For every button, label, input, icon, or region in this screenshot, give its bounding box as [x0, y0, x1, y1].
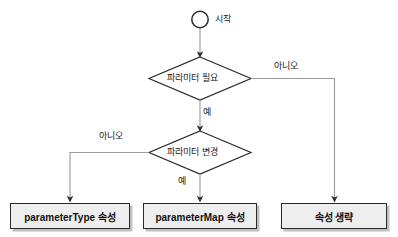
- edge-need-parameter-no-to-omit: [251, 79, 335, 200]
- terminal-parameter-type-label: parameterType 속성: [24, 209, 116, 224]
- terminal-parameter-map-label: parameterMap 속성: [155, 209, 244, 224]
- terminal-parameter-map[interactable]: parameterMap 속성: [143, 203, 257, 229]
- start-node-circle: [192, 11, 208, 27]
- flowchart-canvas: 시작 파라미터 필요 파라미터 변경 아니오 예 아니오 예 parameter…: [0, 0, 398, 237]
- decision-change-parameter-label: 파라미터 변경: [167, 148, 218, 157]
- terminal-omit-attribute-label: 속성 생략: [315, 209, 354, 224]
- decision-need-parameter-label: 파라미터 필요: [167, 74, 218, 83]
- edge-label-need-parameter-yes: 예: [203, 108, 211, 117]
- start-node-label: 시작: [215, 15, 231, 24]
- edge-label-change-parameter-yes: 예: [178, 177, 186, 186]
- edge-label-change-parameter-no: 아니오: [99, 132, 123, 141]
- flowchart-connectors: [0, 0, 398, 237]
- terminal-omit-attribute[interactable]: 속성 생략: [281, 203, 387, 229]
- terminal-parameter-type[interactable]: parameterType 속성: [10, 203, 130, 229]
- edge-change-parameter-no-to-type: [70, 153, 149, 200]
- edge-label-need-parameter-no: 아니오: [274, 62, 298, 71]
